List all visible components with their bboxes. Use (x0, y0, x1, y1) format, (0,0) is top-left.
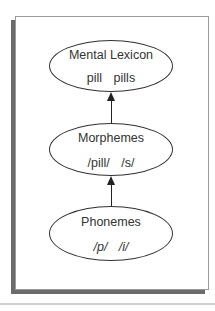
node-title: Mental Lexicon (50, 48, 172, 62)
node-title: Morphemes (50, 131, 172, 145)
edge-phonemes-to-morphemes (111, 184, 112, 207)
node-items: /p/ /i/ (50, 240, 172, 254)
node-morphemes: Morphemes /pill/ /s/ (49, 123, 173, 176)
node-title: Phonemes (50, 215, 172, 229)
edge-morphemes-to-lexicon (111, 100, 112, 124)
node-phonemes: Phonemes /p/ /i/ (49, 206, 173, 261)
node-mental-lexicon: Mental Lexicon pill pills (49, 40, 173, 92)
node-items: /pill/ /s/ (50, 156, 172, 170)
node-items: pill pills (50, 71, 172, 85)
bottom-rule (0, 303, 215, 305)
